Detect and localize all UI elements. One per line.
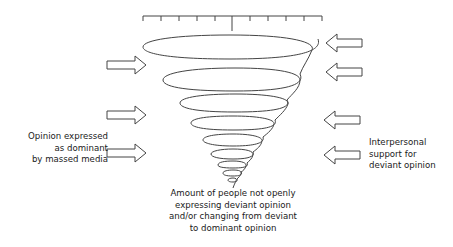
label-line: expressing deviant opinion xyxy=(140,200,326,212)
arrow-left-icon xyxy=(326,63,362,81)
right-arrows xyxy=(324,34,362,164)
arrow-left-icon xyxy=(324,111,360,129)
left-arrows xyxy=(107,56,146,162)
arrow-left-icon xyxy=(326,34,362,52)
label-line: to dominant opinion xyxy=(140,223,326,235)
interpersonal-support-label: Interpersonal support for deviant opinio… xyxy=(369,137,436,172)
arrow-right-icon xyxy=(107,56,146,74)
arrow-left-icon xyxy=(324,146,360,164)
label-line: and/or changing from deviant xyxy=(140,211,326,223)
arrow-right-icon xyxy=(107,144,146,162)
label-line: support for xyxy=(369,149,436,161)
silent-people-label: Amount of people not openly expressing d… xyxy=(140,188,326,234)
label-line: Opinion expressed xyxy=(28,131,108,143)
label-line: by massed media xyxy=(28,154,108,166)
label-line: as dominant xyxy=(28,143,108,155)
label-line: deviant opinion xyxy=(369,160,436,172)
spiral-icon xyxy=(143,35,319,188)
mass-media-label: Opinion expressed as dominant by massed … xyxy=(28,131,108,166)
label-line: Interpersonal xyxy=(369,137,436,149)
opinion-scale xyxy=(143,16,322,31)
arrow-right-icon xyxy=(107,106,146,124)
label-line: Amount of people not openly xyxy=(140,188,326,200)
